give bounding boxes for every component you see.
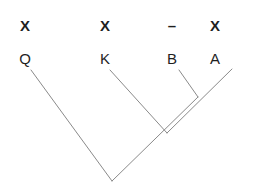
leaf-bottom-label-q: Q (10, 51, 40, 67)
branch-layer (31, 69, 232, 181)
leaf-label-q: X Q (10, 18, 40, 67)
leaf-top-label-q: X (10, 18, 40, 34)
cladogram-figure: X Q X K – B X A (0, 0, 255, 192)
leaf-label-a: X A (200, 18, 230, 67)
leaf-top-label-a: X (200, 18, 230, 34)
leaf-label-b: – B (157, 18, 187, 67)
branch-a (167, 69, 232, 133)
branch-k (110, 70, 167, 133)
leaf-bottom-label-k: K (90, 51, 120, 67)
branch-ba-to-root (112, 97, 198, 181)
branch-b (179, 70, 198, 97)
leaf-bottom-label-b: B (157, 51, 187, 67)
leaf-label-k: X K (90, 18, 120, 67)
leaf-bottom-label-a: A (200, 51, 230, 67)
leaf-top-label-b: – (157, 18, 187, 34)
branch-q (31, 70, 112, 181)
leaf-top-label-k: X (90, 18, 120, 34)
